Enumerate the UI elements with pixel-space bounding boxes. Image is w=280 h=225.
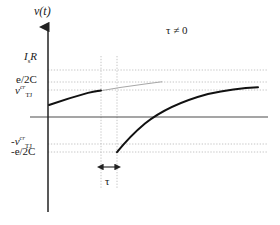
y-label-isr-tail: R bbox=[30, 50, 37, 62]
y-label-isr: IsR bbox=[24, 51, 37, 65]
voltage-waveform-figure: v(t) τ ≠ 0 IsR e/2C vcrTJ -vcrTJ -e/2C τ bbox=[0, 0, 280, 225]
y-label-neg-e2c: -e/2C bbox=[11, 146, 35, 157]
y-label-vcr-sub: TJ bbox=[25, 91, 32, 98]
vertical-gridlines bbox=[101, 56, 117, 188]
annotation-tau-nonzero: τ ≠ 0 bbox=[166, 25, 187, 36]
y-label-neg-vcr-sup: cr bbox=[20, 134, 26, 141]
tangent-extension-line bbox=[95, 82, 162, 92]
y-label-vcr-sup: cr bbox=[20, 83, 26, 90]
charging-curve-segment-1 bbox=[49, 90, 101, 105]
tau-interval-label: τ bbox=[105, 176, 109, 187]
y-label-vcr-tj: vcrTJ bbox=[15, 84, 32, 99]
charging-curve-segment-2 bbox=[117, 87, 258, 152]
plot-canvas bbox=[0, 0, 280, 225]
y-axis-title: v(t) bbox=[34, 5, 51, 17]
